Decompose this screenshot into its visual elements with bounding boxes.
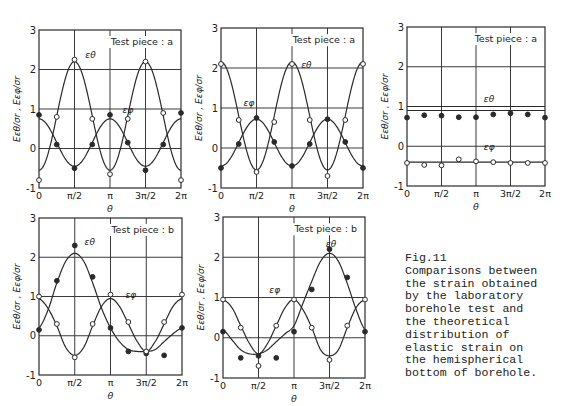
chart-panel-1: -101230π/2π3π/22πθEεθ/σr , Eεφ/σrTest pi… xyxy=(9,20,189,220)
y-axis-label: Eεθ/σr , Eεφ/σr xyxy=(12,262,22,329)
figure-caption: Fig.11 Comparisons between the strain ob… xyxy=(405,252,570,380)
series-label: εθ xyxy=(85,50,96,60)
open-data-point xyxy=(221,297,226,302)
y-axis-label: Eεθ/σr , Eεφ/σr xyxy=(194,74,204,141)
open-data-point xyxy=(543,161,548,166)
filled-data-point xyxy=(361,166,366,171)
y-tick-label: 0 xyxy=(212,143,218,154)
open-data-point xyxy=(37,178,42,183)
filled-data-point xyxy=(143,168,148,173)
x-tick-label: 0 xyxy=(404,188,410,199)
x-tick-label: 3π/2 xyxy=(319,380,340,391)
series-label: εθ xyxy=(85,237,96,247)
x-tick-label: 0 xyxy=(36,190,42,201)
x-axis-label: θ xyxy=(291,393,297,404)
filled-data-point xyxy=(221,329,226,334)
open-data-point xyxy=(474,159,479,164)
filled-data-point xyxy=(219,166,224,171)
filled-data-point xyxy=(325,117,330,122)
series-label: εφ xyxy=(269,285,280,295)
open-data-point xyxy=(161,111,166,116)
y-tick-label: 2 xyxy=(30,64,36,75)
x-tick-label: π/2 xyxy=(249,190,264,201)
x-tick-label: 3π/2 xyxy=(317,190,338,201)
y-tick-label: 1 xyxy=(398,101,404,112)
filled-data-point xyxy=(108,113,113,118)
y-tick-label: 3 xyxy=(398,22,404,33)
series-label: εθ xyxy=(484,94,495,104)
series-label: εθ xyxy=(301,60,312,70)
open-data-point xyxy=(236,118,241,123)
filled-data-point xyxy=(54,278,59,283)
open-data-point xyxy=(345,323,350,328)
y-tick-label: -1 xyxy=(26,183,36,194)
x-tick-label: 3π/2 xyxy=(135,190,156,201)
open-data-point xyxy=(361,62,366,67)
filled-data-point xyxy=(272,140,277,145)
panel-title: Test piece : a xyxy=(110,36,173,47)
filled-data-point xyxy=(236,142,241,147)
caption-line: bottom of borehole. xyxy=(405,367,570,380)
open-data-point xyxy=(180,292,185,297)
open-data-point xyxy=(54,115,59,120)
x-tick-label: 3π/2 xyxy=(136,377,157,388)
y-tick-label: -1 xyxy=(26,370,36,381)
open-data-point xyxy=(125,116,130,121)
open-data-point xyxy=(90,322,95,327)
x-tick-label: 0 xyxy=(36,377,42,388)
chart-panel-4: -101230π/2π3π/22πθEεθ/σr , Eεφ/σrTest pi… xyxy=(9,208,190,406)
x-tick-label: 2π xyxy=(176,377,188,388)
y-tick-label: 2 xyxy=(398,61,404,72)
y-tick-label: 3 xyxy=(30,213,36,224)
open-data-point xyxy=(108,172,113,177)
x-tick-label: 0 xyxy=(218,190,224,201)
x-tick-label: 2π xyxy=(359,380,371,391)
open-data-point xyxy=(363,297,368,302)
x-tick-label: 2π xyxy=(539,188,551,199)
filled-data-point xyxy=(343,140,348,145)
open-data-point xyxy=(108,292,113,297)
filled-data-point xyxy=(456,115,461,120)
open-data-point xyxy=(309,325,314,330)
y-tick-label: 1 xyxy=(212,103,218,114)
filled-data-point xyxy=(37,327,42,332)
filled-data-point xyxy=(491,112,496,117)
open-data-point xyxy=(144,349,149,354)
y-tick-label: 0 xyxy=(214,332,220,343)
y-tick-label: -1 xyxy=(210,373,220,384)
filled-data-point xyxy=(525,112,530,117)
open-data-point xyxy=(307,118,312,123)
filled-data-point xyxy=(439,113,444,118)
x-tick-label: 0 xyxy=(220,380,226,391)
open-data-point xyxy=(456,157,461,162)
x-axis-label: θ xyxy=(108,390,114,401)
filled-data-point xyxy=(274,355,279,360)
x-tick-label: 2π xyxy=(175,190,187,201)
filled-data-point xyxy=(125,140,130,145)
open-data-point xyxy=(256,364,261,369)
x-tick-label: π/2 xyxy=(251,380,266,391)
filled-data-point xyxy=(292,329,297,334)
chart-panel-5: -101230π/2π3π/22πθEεθ/σr , Eεφ/σrTest pi… xyxy=(193,207,373,406)
y-tick-label: 3 xyxy=(212,23,218,34)
open-data-point xyxy=(491,160,496,165)
open-data-point xyxy=(90,116,95,121)
caption-line: distribution of xyxy=(405,329,570,342)
filled-data-point xyxy=(37,113,42,118)
filled-data-point xyxy=(290,164,295,169)
filled-data-point xyxy=(405,115,410,120)
y-tick-label: 2 xyxy=(212,63,218,74)
x-tick-label: π xyxy=(473,188,479,199)
chart-panel-3: -101230π/2π3π/22πθEεθ/σr , Eεφ/σrTest pi… xyxy=(377,17,553,218)
filled-data-point xyxy=(90,142,95,147)
filled-data-point xyxy=(72,243,77,248)
y-tick-label: -1 xyxy=(394,181,404,192)
filled-data-point xyxy=(307,142,312,147)
panel-title: Test piece : b xyxy=(110,224,174,235)
y-tick-label: 0 xyxy=(398,141,404,152)
y-tick-label: 3 xyxy=(214,212,220,223)
open-data-point xyxy=(325,174,330,179)
filled-data-point xyxy=(54,142,59,147)
filled-data-point xyxy=(126,349,131,354)
open-data-point xyxy=(162,320,167,325)
